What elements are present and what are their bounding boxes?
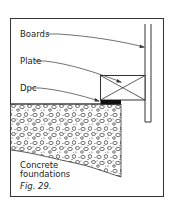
- figure-caption: Fig. 29.: [20, 181, 52, 191]
- label-foundations: foundations: [20, 169, 71, 179]
- label-boards: Boards: [20, 29, 50, 39]
- diagram-canvas: Boards Plate Dpc Concrete foundations Fi…: [0, 0, 173, 212]
- boards: [145, 24, 151, 122]
- dpc-strip: [101, 100, 122, 105]
- label-plate: Plate: [20, 56, 41, 66]
- label-dpc: Dpc: [20, 83, 37, 93]
- plate: [101, 76, 146, 101]
